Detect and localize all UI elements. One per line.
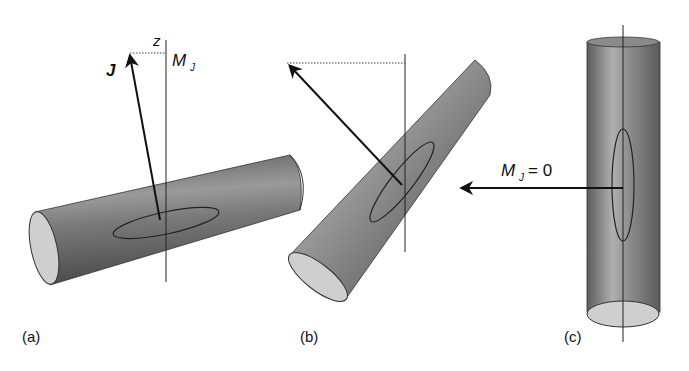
panel-c-label: (c) bbox=[564, 328, 582, 345]
z-axis-label: z bbox=[152, 32, 161, 49]
j-vector-label: J bbox=[106, 61, 116, 80]
cylinder-a-body bbox=[35, 155, 301, 285]
panel-a: z M J J (a) bbox=[22, 32, 303, 345]
panel-a-label: (a) bbox=[22, 328, 40, 345]
mj-sub-c: J bbox=[518, 172, 525, 183]
mj-sub-a: J bbox=[189, 62, 196, 73]
mj-label-a: M bbox=[172, 51, 187, 70]
angular-momentum-vector-b bbox=[290, 66, 402, 185]
rotor-diagram: z M J J (a) (b) M J = 0 (c) bbox=[0, 0, 689, 371]
mj-label-c: M bbox=[501, 161, 516, 180]
panel-b: (b) bbox=[282, 54, 491, 345]
panel-b-label: (b) bbox=[300, 328, 318, 345]
panel-c: M J = 0 (c) bbox=[462, 25, 660, 345]
mj-value-c: = 0 bbox=[528, 161, 552, 180]
